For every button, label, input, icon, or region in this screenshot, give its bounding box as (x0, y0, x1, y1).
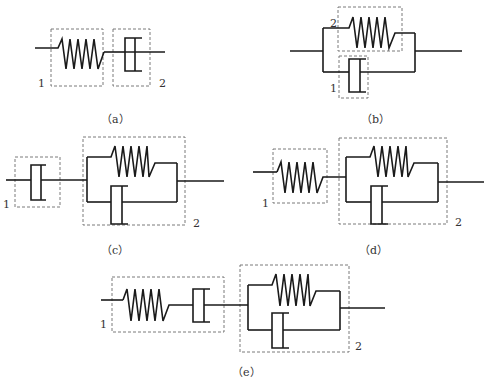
dashpot-cylinder-icon (193, 289, 204, 322)
panel-d: 1 2 （d） (253, 138, 484, 257)
panel-a: 1 2 （a） (35, 29, 166, 126)
dashpot-piston-icon (360, 59, 366, 92)
spring-icon (248, 274, 340, 306)
dashpot-piston-icon (41, 165, 46, 200)
element-2-label: 2 (355, 340, 362, 353)
element-1-box (51, 29, 103, 86)
element-2-label: 2 (330, 17, 337, 30)
element-1-label: 1 (262, 197, 269, 210)
panel-caption: （e） (232, 366, 261, 379)
dashpot-cylinder-icon (371, 186, 382, 224)
spring-icon (123, 289, 193, 321)
dashpot-piston-icon (122, 186, 128, 224)
dashpot-cylinder-icon (125, 38, 135, 71)
spring-icon (87, 146, 177, 177)
element-2-label: 2 (455, 216, 462, 229)
panel-e: 1 2 （e） (100, 265, 385, 379)
element-1-label: 1 (330, 82, 337, 95)
element-2-label: 2 (193, 217, 200, 230)
panel-caption: （b） (361, 113, 390, 126)
element-1-label: 1 (100, 318, 107, 331)
element-1-label: 1 (3, 198, 10, 211)
dashpot-cylinder-icon (272, 313, 283, 348)
spring-icon (346, 146, 438, 177)
spring-icon (35, 39, 104, 69)
panel-caption: （d） (359, 244, 388, 257)
dashpot-cylinder-icon (111, 186, 122, 224)
element-2-box (339, 138, 447, 224)
dashpot-cylinder-icon (31, 165, 41, 200)
spring-icon (277, 162, 346, 193)
panel-c: 1 2 （c） (3, 137, 224, 257)
element-2-label: 2 (159, 77, 166, 90)
dashpot-piston-icon (382, 186, 388, 224)
dashpot-cylinder-icon (349, 59, 360, 92)
element-1-box (273, 149, 327, 203)
dashpot-piston-icon (135, 38, 142, 71)
element-2-box (83, 137, 185, 225)
rheological-models-figure: 1 2 （a） 2 1 （b） 1 2 （c） (0, 0, 491, 380)
panel-b: 2 1 （b） (290, 7, 462, 126)
element-1-label: 1 (38, 77, 45, 90)
panel-caption: （a） (101, 113, 130, 126)
element-2-box (240, 265, 349, 352)
panel-caption: （c） (101, 244, 129, 257)
